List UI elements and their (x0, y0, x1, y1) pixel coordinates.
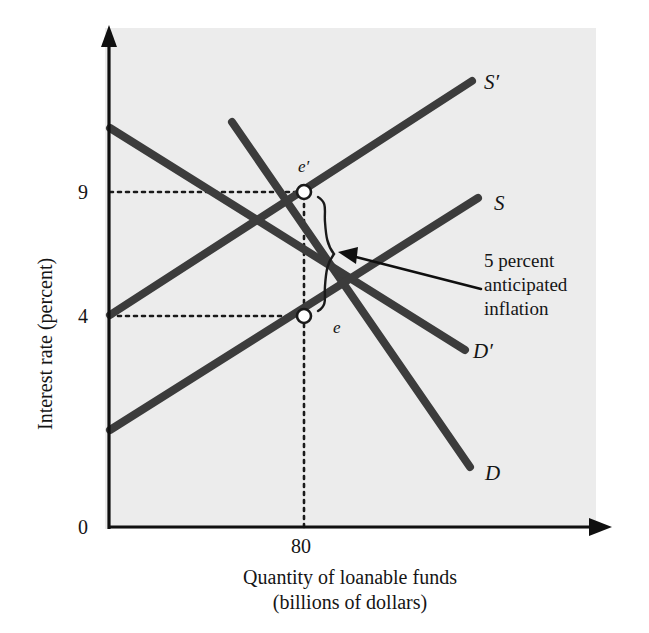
annotation-line-2: anticipated (484, 273, 567, 297)
y-axis-title: Interest rate (percent) (34, 258, 56, 430)
point-label-e: e (333, 318, 341, 337)
economics-figure: Interest rate (percent) 9 4 0 80 Quantit… (0, 0, 649, 633)
equilibrium-marker-e-prime (297, 185, 311, 199)
x-axis-title-line2: (billions of dollars) (205, 591, 495, 613)
curve-label-supply-shifted: S′ (484, 71, 499, 95)
curve-label-demand: D (485, 462, 500, 486)
chart-canvas (0, 0, 649, 633)
x-axis-arrowhead (589, 518, 612, 536)
x-tick-label-80: 80 (291, 535, 311, 557)
origin-label: 0 (78, 516, 88, 538)
point-label-e-prime: e′ (298, 157, 309, 176)
annotation-line-1: 5 percent (484, 249, 554, 273)
curve-label-supply: S (494, 192, 505, 216)
y-tick-label-4: 4 (78, 305, 88, 327)
x-axis-title-line1: Quantity of loanable funds (205, 566, 495, 588)
equilibrium-marker-e (297, 309, 311, 323)
annotation-line-3: inflation (484, 297, 548, 321)
y-tick-label-9: 9 (78, 181, 88, 203)
curve-label-demand-shifted: D′ (473, 340, 493, 364)
